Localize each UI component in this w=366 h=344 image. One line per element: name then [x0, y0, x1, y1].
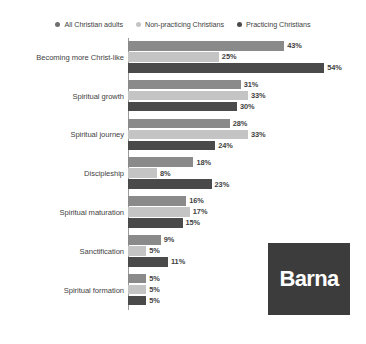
bar-set: 31%33%30% — [128, 80, 366, 113]
legend-item-label: Practicing Christians — [246, 20, 310, 29]
bar-value-label: 5% — [149, 285, 160, 294]
bar — [128, 141, 215, 151]
legend-swatch-icon — [136, 22, 141, 27]
legend-item: Practicing Christians — [237, 20, 310, 29]
bar — [128, 52, 219, 62]
bar-row: 15% — [128, 218, 366, 228]
category-label: Spiritual maturation — [8, 208, 124, 217]
bar-value-label: 24% — [218, 141, 233, 150]
bar — [128, 157, 193, 167]
bar-row: 18% — [128, 157, 366, 167]
chart-legend: All Christian adultsNon-practicing Chris… — [0, 20, 366, 29]
bar-value-label: 16% — [189, 196, 204, 205]
legend-item: All Christian adults — [55, 20, 123, 29]
bar — [128, 63, 324, 73]
bar-row: 43% — [128, 41, 366, 51]
category-label: Sanctification — [8, 247, 124, 256]
bar-value-label: 33% — [251, 91, 266, 100]
bar-set: 18%8%23% — [128, 157, 366, 190]
bar-set: 28%33%24% — [128, 119, 366, 152]
bar-group: Discipleship18%8%23% — [0, 154, 366, 193]
bar — [128, 246, 146, 256]
bar — [128, 80, 241, 90]
bar-row: 8% — [128, 168, 366, 178]
bar — [128, 91, 248, 101]
bar-value-label: 5% — [149, 246, 160, 255]
bar-value-label: 8% — [160, 169, 171, 178]
bar-value-label: 15% — [186, 218, 201, 227]
bar-group: Spiritual growth31%33%30% — [0, 77, 366, 116]
bar-group: Spiritual maturation16%17%15% — [0, 193, 366, 232]
bar-group: Becoming more Christ-like43%25%54% — [0, 38, 366, 77]
bar-value-label: 25% — [222, 52, 237, 61]
bar — [128, 41, 284, 51]
bar-group: Spiritual journey28%33%24% — [0, 116, 366, 155]
bar-value-label: 5% — [149, 296, 160, 305]
bar-row: 30% — [128, 102, 366, 112]
bar — [128, 179, 212, 189]
barna-logo: Barna — [268, 243, 350, 315]
legend-item-label: Non-practicing Christians — [145, 20, 224, 29]
bar-value-label: 28% — [233, 119, 248, 128]
bar-value-label: 17% — [193, 207, 208, 216]
bar — [128, 274, 146, 284]
bar-row: 16% — [128, 196, 366, 206]
bar-value-label: 9% — [164, 235, 175, 244]
bar — [128, 235, 161, 245]
category-label: Spiritual formation — [8, 286, 124, 295]
bar-value-label: 54% — [327, 63, 342, 72]
bar-row: 33% — [128, 130, 366, 140]
barna-logo-text: Barna — [280, 266, 339, 292]
bar-row: 28% — [128, 119, 366, 129]
category-label: Discipleship — [8, 169, 124, 178]
bar-row: 17% — [128, 207, 366, 217]
bar-value-label: 11% — [171, 257, 185, 266]
bar-row: 25% — [128, 52, 366, 62]
bar — [128, 218, 183, 228]
category-label: Spiritual journey — [8, 130, 124, 139]
bar-value-label: 23% — [215, 180, 230, 189]
bar-row: 24% — [128, 141, 366, 151]
bar-value-label: 33% — [251, 130, 266, 139]
bar-chart: All Christian adultsNon-practicing Chris… — [0, 0, 366, 344]
bar-row: 31% — [128, 80, 366, 90]
bar-set: 43%25%54% — [128, 41, 366, 74]
category-label: Becoming more Christ-like — [8, 53, 124, 62]
bar-value-label: 31% — [244, 80, 259, 89]
bar — [128, 102, 237, 112]
bar — [128, 207, 190, 217]
bar-value-label: 18% — [196, 158, 211, 167]
bar — [128, 168, 157, 178]
legend-swatch-icon — [55, 22, 60, 27]
legend-item-label: All Christian adults — [64, 20, 123, 29]
legend-swatch-icon — [237, 22, 242, 27]
bar-row: 54% — [128, 63, 366, 73]
bar-row: 23% — [128, 179, 366, 189]
bar-value-label: 5% — [149, 274, 160, 283]
bar — [128, 285, 146, 295]
bar-value-label: 30% — [240, 102, 255, 111]
bar-row: 33% — [128, 91, 366, 101]
bar — [128, 130, 248, 140]
bar-set: 16%17%15% — [128, 196, 366, 229]
bar — [128, 119, 230, 129]
category-label: Spiritual growth — [8, 92, 124, 101]
bar — [128, 257, 168, 267]
legend-item: Non-practicing Christians — [136, 20, 224, 29]
bar — [128, 296, 146, 306]
bar — [128, 196, 186, 206]
bar-value-label: 43% — [287, 41, 302, 50]
